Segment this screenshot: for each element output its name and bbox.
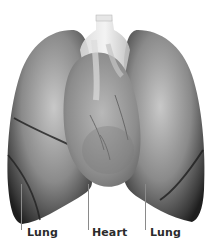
- heart-label: Heart: [92, 226, 127, 240]
- left-lung-leader-line: [21, 184, 22, 230]
- lungs-heart-illustration: [0, 0, 211, 244]
- left-lung-label: Lung: [27, 226, 58, 240]
- heart-leader-line: [88, 184, 89, 230]
- anatomy-figure: Lung Heart Lung: [0, 0, 211, 244]
- right-lung-leader-line: [145, 184, 146, 230]
- right-lung-label: Lung: [150, 226, 181, 240]
